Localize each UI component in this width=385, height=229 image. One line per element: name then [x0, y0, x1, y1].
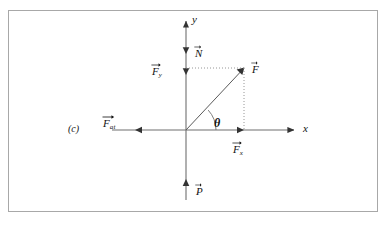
- vector-base-resultant: F: [252, 63, 259, 75]
- panel-label: (c): [68, 124, 79, 134]
- vector-subscript-force-y: y: [159, 71, 162, 79]
- figure-root: (c) y x N Fy F: [0, 0, 385, 229]
- vector-subscript-force-x: x: [240, 149, 243, 157]
- vector-label-friction: Fat: [103, 114, 116, 131]
- vector-label-force-y: Fy: [152, 62, 162, 79]
- vector-subscript-friction: at: [110, 123, 116, 131]
- vector-base-weight: P: [196, 185, 203, 197]
- y-axis-label: y: [192, 14, 197, 25]
- vector-symbol-force-y: Fy: [152, 66, 162, 79]
- vector-symbol-weight: P: [196, 186, 203, 197]
- force-diagram-canvas: [0, 0, 385, 229]
- vector-weight-P: [183, 179, 190, 186]
- vector-symbol-force-x: Fx: [233, 144, 243, 157]
- vector-symbol-resultant: F: [252, 64, 259, 75]
- vector-symbol-friction: Fat: [103, 118, 116, 131]
- vector-force-y-component: [183, 68, 190, 75]
- x-axis-label: x: [303, 123, 308, 134]
- vector-symbol-normal: N: [195, 48, 202, 59]
- vector-base-force-x: F: [233, 143, 240, 155]
- vector-label-normal: N: [195, 44, 202, 60]
- vector-label-weight: P: [196, 182, 203, 198]
- vector-force-x-component: [237, 127, 244, 133]
- vector-base-force-y: F: [152, 65, 159, 77]
- vector-label-resultant: F: [252, 60, 259, 76]
- vector-base-friction: F: [103, 117, 110, 129]
- vector-normal-N: [183, 47, 190, 54]
- vector-friction-Fat: [135, 127, 142, 133]
- vector-base-normal: N: [195, 47, 202, 59]
- vector-label-force-x: Fx: [233, 140, 243, 157]
- angle-label-theta: θ: [214, 117, 220, 129]
